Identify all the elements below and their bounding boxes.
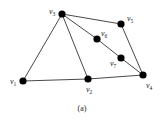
graph-edges — [23, 14, 143, 81]
node-v7 — [117, 54, 124, 61]
node-label-v3: v3 — [49, 7, 56, 17]
edge-v2-v4 — [88, 75, 143, 79]
edge-v3-v5 — [62, 14, 121, 24]
node-label-v2: v2 — [86, 85, 93, 95]
node-v6 — [93, 35, 100, 42]
node-v4 — [139, 71, 146, 78]
edge-v6-v7 — [97, 39, 121, 58]
edge-v5-v4 — [121, 24, 143, 75]
node-v5 — [117, 20, 124, 27]
node-label-v7: v7 — [110, 59, 117, 69]
node-label-v5: v5 — [127, 14, 134, 24]
edge-v1-v3 — [23, 14, 62, 81]
edge-v1-v2 — [23, 79, 88, 81]
node-label-v4: v4 — [146, 81, 153, 91]
figure-caption: (a) — [78, 104, 87, 113]
node-v3 — [58, 10, 65, 17]
graph-labels: v1v2v3v4v5v6v7 — [10, 7, 153, 95]
node-label-v6: v6 — [101, 29, 108, 39]
node-v1 — [19, 77, 26, 84]
graph-diagram: v1v2v3v4v5v6v7 (a) — [0, 0, 164, 123]
node-v2 — [84, 75, 91, 82]
node-label-v1: v1 — [10, 77, 17, 87]
